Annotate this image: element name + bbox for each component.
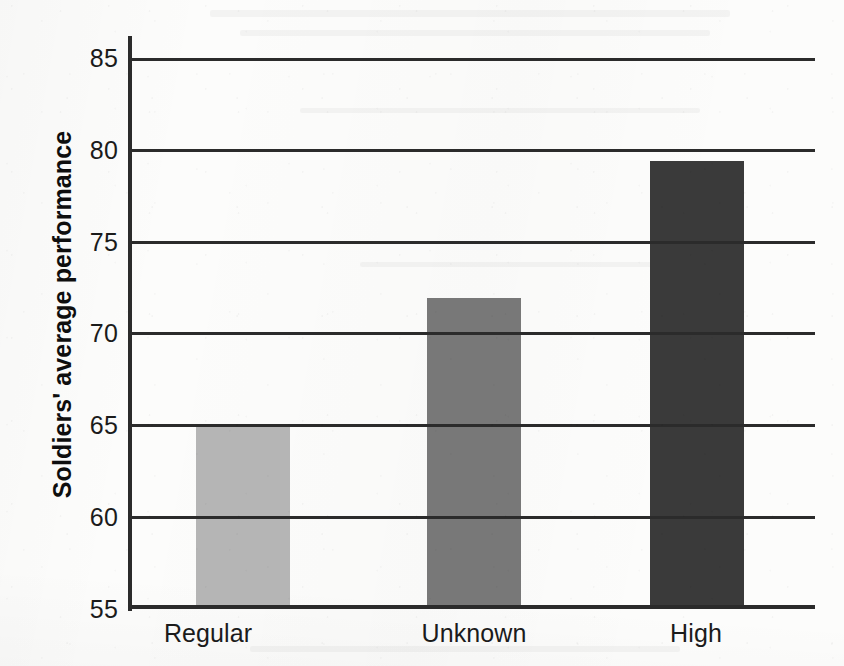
y-axis-tick-labels: 85 80 75 70 65 60 55 [50,0,118,666]
y-tick-label: 55 [56,595,118,624]
gridline-75 [131,241,815,244]
figure-page: Soldiers' average performance 85 80 75 7… [0,0,844,666]
bar-unknown [427,298,521,608]
gridline-70 [131,332,815,335]
x-tick-label-regular: Regular [128,619,288,648]
y-tick-label: 80 [56,136,118,165]
y-tick-label: 85 [56,44,118,73]
gridline-85 [131,58,815,61]
bar-chart: Soldiers' average performance 85 80 75 7… [0,0,844,666]
y-tick-label: 60 [56,503,118,532]
gridline-80 [131,149,815,152]
plot-area [131,58,815,608]
y-tick-label: 75 [56,228,118,257]
y-tick-label: 70 [56,319,118,348]
axis-baseline-55 [131,605,815,609]
x-tick-label-unknown: Unknown [394,619,554,648]
x-tick-label-high: High [616,619,776,648]
gridline-60 [131,516,815,519]
gridline-65 [131,424,815,427]
y-tick-label: 65 [56,411,118,440]
bar-high [650,161,744,608]
